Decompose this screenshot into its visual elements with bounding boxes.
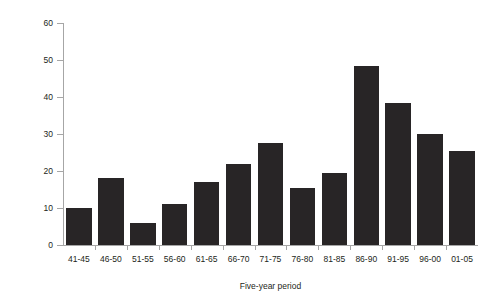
x-axis-tick-label: 76-80 xyxy=(286,254,318,264)
bar xyxy=(162,204,188,245)
x-axis-tick xyxy=(350,246,351,250)
x-axis-tick-label: 81-85 xyxy=(318,254,350,264)
y-axis-tick-label: 20 xyxy=(13,167,53,176)
x-axis-tick-label: 41-45 xyxy=(63,254,95,264)
bar xyxy=(417,134,443,245)
x-axis-title: Five-year period xyxy=(63,281,478,291)
x-axis-tick xyxy=(414,246,415,250)
bar-chart-figure: Number of birds 0102030405060 41-4546-50… xyxy=(0,0,488,308)
bar xyxy=(354,66,380,245)
x-axis-tick-label: 96-00 xyxy=(414,254,446,264)
bar xyxy=(322,173,348,245)
x-axis-tick xyxy=(223,246,224,250)
bar xyxy=(66,208,92,245)
x-axis-tick-label: 71-75 xyxy=(255,254,287,264)
bar xyxy=(449,151,475,245)
x-axis-tick xyxy=(382,246,383,250)
x-axis-tick-label: 61-65 xyxy=(191,254,223,264)
y-axis-tick-label: 10 xyxy=(13,204,53,213)
bar xyxy=(385,103,411,245)
y-axis-tick-label: 40 xyxy=(13,93,53,102)
y-axis-tick-label: 50 xyxy=(13,56,53,65)
bar xyxy=(290,188,316,245)
x-axis-tick-label: 51-55 xyxy=(127,254,159,264)
x-axis-tick-label: 86-90 xyxy=(350,254,382,264)
x-axis-tick xyxy=(95,246,96,250)
x-axis-tick-label: 46-50 xyxy=(95,254,127,264)
bar xyxy=(194,182,220,245)
y-axis-tick-label: 30 xyxy=(13,130,53,139)
x-axis-tick xyxy=(318,246,319,250)
x-axis-tick-label: 66-70 xyxy=(223,254,255,264)
x-axis-tick xyxy=(255,246,256,250)
bar xyxy=(226,164,252,245)
x-axis-tick xyxy=(127,246,128,250)
x-axis-tick-label: 91-95 xyxy=(382,254,414,264)
x-axis-line xyxy=(63,245,478,246)
y-axis-tick-label: 60 xyxy=(13,19,53,28)
x-axis-tick xyxy=(159,246,160,250)
x-axis-tick-label: 56-60 xyxy=(159,254,191,264)
bar xyxy=(258,143,284,245)
x-axis-tick-label: 01-05 xyxy=(446,254,478,264)
y-axis-tick-label: 0 xyxy=(13,241,53,250)
y-axis-tick xyxy=(57,245,63,246)
bar xyxy=(98,178,124,245)
x-axis-tick xyxy=(446,246,447,250)
x-axis-tick xyxy=(286,246,287,250)
bar xyxy=(130,223,156,245)
bar-series xyxy=(63,23,478,245)
x-axis-tick xyxy=(191,246,192,250)
